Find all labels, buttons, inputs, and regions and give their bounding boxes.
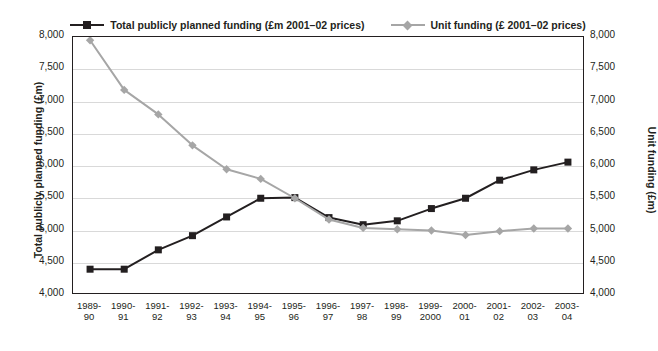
data-point-marker (393, 225, 401, 233)
data-point-marker (189, 232, 196, 239)
right-axis-tick-label: 4,000 (590, 287, 648, 298)
chart-legend: Total publicly planned funding (£m 2001–… (72, 14, 584, 36)
series-layer (73, 37, 585, 295)
data-point-marker (257, 175, 265, 183)
data-point-marker (155, 246, 162, 253)
legend-entry: Total publicly planned funding (£m 2001–… (70, 19, 364, 31)
right-axis-tick-label: 8,000 (590, 29, 648, 40)
series-line (90, 40, 568, 235)
left-axis-tick-label: 6,000 (4, 158, 64, 169)
right-axis-tick-label: 4,500 (590, 255, 648, 266)
left-axis-tick-label: 7,500 (4, 61, 64, 72)
data-point-marker (496, 177, 503, 184)
data-point-marker (564, 224, 572, 232)
data-point-marker (564, 159, 571, 166)
right-axis-tick-label: 5,500 (590, 190, 648, 201)
left-axis-tick-label: 4,500 (4, 255, 64, 266)
x-axis-tick-label: 2003-04 (544, 300, 590, 322)
x-axis-tick-line: 04 (544, 311, 590, 322)
left-axis-tick-label: 8,000 (4, 29, 64, 40)
legend-entry: Unit funding (£ 2001–02 prices) (391, 19, 586, 31)
right-axis-tick-label: 5,000 (590, 223, 648, 234)
right-axis-tick-label: 6,000 (590, 158, 648, 169)
data-point-marker (428, 205, 435, 212)
right-axis-tick-label: 7,000 (590, 94, 648, 105)
series-2 (86, 37, 572, 239)
left-axis-tick-label: 7,000 (4, 94, 64, 105)
data-point-marker (530, 224, 538, 232)
right-axis-tick-label: 6,500 (590, 126, 648, 137)
legend-swatch-icon (391, 20, 425, 30)
data-point-marker (257, 195, 264, 202)
left-axis-tick-label: 5,000 (4, 223, 64, 234)
left-axis-tick-label: 5,500 (4, 190, 64, 201)
data-point-marker (462, 195, 469, 202)
data-point-marker (461, 231, 469, 239)
data-point-marker (121, 266, 128, 273)
data-point-marker (530, 166, 537, 173)
plot-area (72, 36, 584, 294)
x-axis-tick-line: 2003- (544, 300, 590, 311)
left-axis-tick-label: 6,500 (4, 126, 64, 137)
data-point-marker (427, 226, 435, 234)
data-point-marker (87, 266, 94, 273)
legend-swatch-icon (70, 20, 104, 30)
left-axis-tick-label: 4,000 (4, 287, 64, 298)
data-point-marker (394, 217, 401, 224)
data-point-marker (223, 213, 230, 220)
data-point-marker (495, 227, 503, 235)
legend-label: Total publicly planned funding (£m 2001–… (110, 19, 364, 31)
legend-label: Unit funding (£ 2001–02 prices) (431, 19, 586, 31)
right-axis-tick-label: 7,500 (590, 61, 648, 72)
